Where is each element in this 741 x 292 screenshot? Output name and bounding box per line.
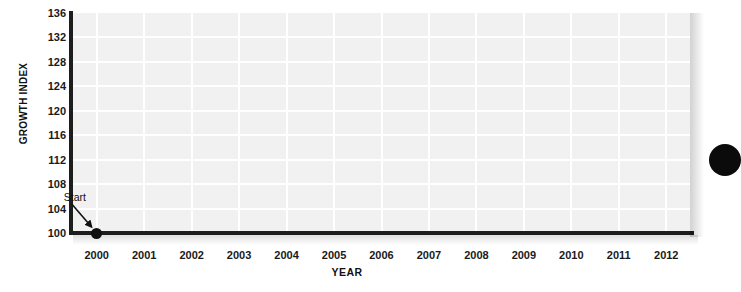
gridline-vertical (428, 13, 430, 233)
edge-circle-marker (709, 144, 741, 176)
gridline-vertical (475, 13, 477, 233)
x-axis-tick-label: 2012 (636, 249, 696, 261)
y-axis-tick-label: 136 (26, 7, 66, 19)
x-axis-title: YEAR (0, 266, 730, 278)
gridline-vertical (96, 13, 98, 233)
y-axis-title-text: GROWTH INDEX (18, 63, 29, 144)
y-axis-tick-label: 120 (26, 105, 66, 117)
gridline-vertical (333, 13, 335, 233)
x-axis-tick-labels: 2000200120022003200420052006200720082009… (0, 249, 730, 265)
y-axis-tick-label: 132 (26, 31, 66, 43)
x-axis-title-text: YEAR (332, 266, 363, 278)
gridline-vertical (570, 13, 572, 233)
y-axis-tick-label: 128 (26, 56, 66, 68)
y-axis-tick-label: 116 (26, 129, 66, 141)
gridline-vertical (665, 13, 667, 233)
y-axis-tick-label: 112 (26, 154, 66, 166)
panel-shadow-right (690, 13, 704, 237)
plot-area (73, 13, 690, 233)
data-point-start (91, 228, 102, 239)
gridline-vertical (286, 13, 288, 233)
y-axis-tick-label: 100 (26, 227, 66, 239)
y-axis-tick-label: 104 (26, 203, 66, 215)
gridline-vertical (191, 13, 193, 233)
y-axis-tick-label: 108 (26, 178, 66, 190)
gridline-vertical (523, 13, 525, 233)
panel-shadow-bottom (73, 235, 698, 245)
start-annotation-label: Start (64, 191, 86, 203)
y-axis-title: GROWTH INDEX (18, 54, 29, 154)
y-axis-tick-label: 124 (26, 80, 66, 92)
gridline-vertical (618, 13, 620, 233)
gridline-vertical (381, 13, 383, 233)
gridline-vertical (238, 13, 240, 233)
gridline-vertical (143, 13, 145, 233)
